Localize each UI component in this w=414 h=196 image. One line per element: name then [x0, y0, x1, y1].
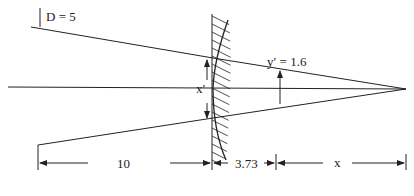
- surface-hatching: [200, 10, 240, 174]
- optical-axis: [8, 87, 406, 89]
- aperture-label: D = 5: [46, 10, 76, 23]
- ray-bottom-incoming: [38, 118, 213, 145]
- image-distance-label: x: [334, 156, 341, 169]
- image-height-label: y′ = 1.6: [267, 55, 306, 68]
- ray-top-incoming: [31, 27, 213, 58]
- ray-top-refracted: [213, 58, 406, 89]
- ray-bottom-refracted: [213, 89, 406, 118]
- surface-height-label: x′: [196, 82, 205, 95]
- object-distance-label: 10: [117, 157, 130, 170]
- ray-diagram: [0, 0, 414, 196]
- surface-gap-label: 3.73: [235, 157, 258, 170]
